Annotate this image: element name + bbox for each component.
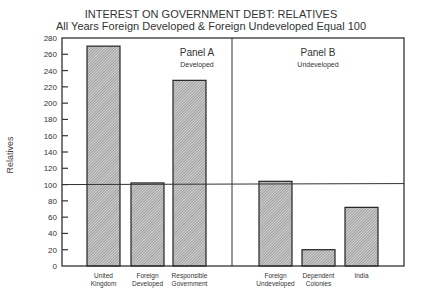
svg-text:Undeveloped: Undeveloped [297,61,338,69]
svg-text:40: 40 [48,229,57,238]
svg-text:United: United [94,272,113,279]
svg-text:Undeveloped: Undeveloped [256,280,295,288]
y-axis: 020406080100120140160180200220240260280 [44,34,68,271]
svg-text:80: 80 [48,197,57,206]
svg-text:100: 100 [44,181,58,190]
svg-text:Foreign: Foreign [136,272,158,280]
svg-text:Colonies: Colonies [306,280,332,287]
svg-text:0: 0 [53,262,58,271]
svg-text:Dependent: Dependent [303,272,335,280]
svg-text:Panel A: Panel A [180,47,215,58]
svg-text:Foreign: Foreign [264,272,286,280]
svg-text:180: 180 [44,115,58,124]
bar-chart: 020406080100120140160180200220240260280 … [0,0,422,290]
svg-text:220: 220 [44,83,58,92]
svg-text:India: India [354,272,368,279]
svg-text:Panel B: Panel B [300,47,335,58]
svg-text:160: 160 [44,132,58,141]
svg-text:20: 20 [48,246,57,255]
y-axis-label: Relatives [5,136,15,174]
svg-text:Government: Government [172,280,208,287]
svg-text:Developed: Developed [132,280,163,288]
svg-text:240: 240 [44,67,58,76]
svg-text:200: 200 [44,99,58,108]
svg-text:Responsible: Responsible [172,272,208,280]
svg-text:260: 260 [44,50,58,59]
svg-text:Kingdom: Kingdom [91,280,117,288]
svg-text:120: 120 [44,164,58,173]
svg-text:280: 280 [44,34,58,43]
svg-text:140: 140 [44,148,58,157]
svg-text:Developed: Developed [180,61,214,69]
svg-text:60: 60 [48,213,57,222]
